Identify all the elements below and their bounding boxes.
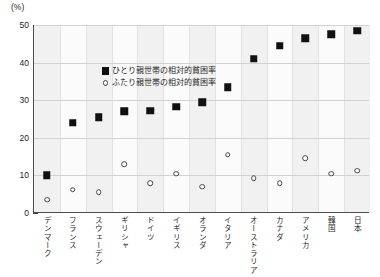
legend-item-single-parent: ひとり親世帯の相対的貧困率 xyxy=(99,65,216,77)
x-axis-tick-label: オランダ xyxy=(197,216,205,249)
x-axis-tick-label: イタリア xyxy=(223,216,231,249)
y-axis-tick-label: 30 xyxy=(7,95,29,105)
marker-single-parent xyxy=(302,34,310,42)
chart-legend: ひとり親世帯の相対的貧困率 ふたり親世帯の相対的貧困率 xyxy=(97,64,218,90)
marker-single-parent xyxy=(353,27,361,35)
plot-area: ひとり親世帯の相対的貧困率 ふたり親世帯の相対的貧困率 xyxy=(33,25,369,213)
x-axis-tick-label: スウェーデン xyxy=(94,216,102,266)
marker-single-parent xyxy=(276,42,284,50)
gridline xyxy=(34,175,369,176)
y-axis-tick-label: 50 xyxy=(7,20,29,30)
marker-single-parent xyxy=(95,113,103,121)
marker-two-parent xyxy=(122,161,128,167)
x-axis-tick-label: ドイツ xyxy=(145,216,153,241)
open-circle-icon xyxy=(99,80,112,86)
marker-two-parent xyxy=(199,184,205,190)
marker-single-parent xyxy=(147,107,155,115)
marker-single-parent xyxy=(327,31,335,39)
marker-two-parent xyxy=(303,156,309,162)
x-axis-tick-label: カナダ xyxy=(274,216,282,241)
x-axis-labels: デンマークフランススウェーデンギリシャドイツイギリスオランダイタリアオーストラリ… xyxy=(33,214,369,277)
column-band xyxy=(344,25,370,212)
legend-item-two-parent: ふたり親世帯の相対的貧困率 xyxy=(99,77,216,89)
x-axis-tick-label: 日本 xyxy=(352,216,360,233)
marker-single-parent xyxy=(224,83,232,91)
marker-two-parent xyxy=(173,171,179,177)
filled-square-icon xyxy=(99,67,112,75)
marker-single-parent xyxy=(121,108,129,116)
category-separator xyxy=(189,25,190,212)
y-axis-tick-label: 0 xyxy=(7,208,29,218)
y-axis-unit-label: (%) xyxy=(11,2,24,12)
y-axis-tick-label: 40 xyxy=(7,58,29,68)
gridline xyxy=(34,138,369,139)
category-separator xyxy=(344,25,345,212)
marker-two-parent xyxy=(44,197,50,203)
marker-two-parent xyxy=(277,180,283,186)
category-separator xyxy=(163,25,164,212)
marker-two-parent xyxy=(354,168,360,174)
marker-two-parent xyxy=(225,152,231,158)
legend-label-two-parent: ふたり親世帯の相対的貧困率 xyxy=(112,79,216,87)
y-axis-tick-label: 20 xyxy=(7,133,29,143)
category-separator xyxy=(215,25,216,212)
column-band xyxy=(292,25,318,212)
category-separator xyxy=(112,25,113,212)
column-band xyxy=(34,25,60,212)
x-axis-tick-label: ギリシャ xyxy=(119,216,127,249)
marker-two-parent xyxy=(251,175,257,181)
column-band xyxy=(241,25,267,212)
x-axis-tick-label: フランス xyxy=(68,216,76,249)
legend-label-single-parent: ひとり親世帯の相対的貧困率 xyxy=(112,67,216,75)
category-separator xyxy=(241,25,242,212)
category-separator xyxy=(318,25,319,212)
x-axis-tick-label: アメリカ xyxy=(300,216,308,249)
x-axis-tick-label: イギリス xyxy=(171,216,179,249)
y-axis-labels: 01020304050 xyxy=(5,25,29,213)
marker-two-parent xyxy=(148,180,154,186)
marker-two-parent xyxy=(70,187,76,193)
y-axis-tick-label: 10 xyxy=(7,170,29,180)
category-separator xyxy=(292,25,293,212)
category-separator xyxy=(60,25,61,212)
marker-single-parent xyxy=(250,55,258,63)
x-axis-tick-label: デンマーク xyxy=(42,216,50,258)
category-separator xyxy=(267,25,268,212)
marker-single-parent xyxy=(43,172,51,180)
marker-single-parent xyxy=(198,98,206,106)
category-separator xyxy=(86,25,87,212)
gridline xyxy=(34,25,369,26)
marker-single-parent xyxy=(69,119,77,127)
marker-two-parent xyxy=(96,189,102,195)
marker-two-parent xyxy=(328,171,334,177)
x-axis-tick-label: オーストラリア xyxy=(249,216,257,274)
marker-single-parent xyxy=(172,103,180,111)
x-axis-tick-label: 韓国 xyxy=(326,216,334,233)
poverty-rate-scatter-chart: (%) 01020304050 ひとり親世帯の相対的貧困率 ふたり親世帯の相対的… xyxy=(0,0,380,277)
category-separator xyxy=(137,25,138,212)
